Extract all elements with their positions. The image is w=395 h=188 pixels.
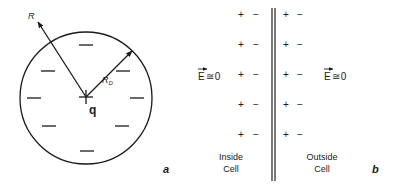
- minus-charge-right: −: [297, 9, 303, 20]
- minus-charge-right: −: [297, 39, 303, 50]
- field-value: 0: [215, 71, 221, 82]
- field-left: E≅0: [198, 69, 221, 82]
- plus-charge-right: +: [283, 39, 289, 50]
- inside-cell-label-line1: Inside: [219, 152, 243, 162]
- figure: q R RD a +−+−+−+−+−+−+−+−+−+− E≅0 E≅0: [0, 0, 395, 188]
- plus-charge-left: +: [238, 9, 244, 20]
- field-vector: E: [198, 71, 205, 82]
- inside-cell-label-line2: Cell: [223, 164, 239, 174]
- minus-charge-left: −: [253, 39, 259, 50]
- radius-arrow: [38, 22, 86, 97]
- panel-a-label: a: [163, 163, 169, 175]
- panel-b: +−+−+−+−+−+−+−+−+−+− E≅0 E≅0 Inside Cell…: [198, 8, 379, 181]
- minus-charge-left: −: [253, 99, 259, 110]
- field-left-text: E≅0: [198, 71, 221, 82]
- minus-charge-left: −: [253, 129, 259, 140]
- charge-label-q: q: [89, 103, 96, 117]
- panel-a: q R RD a: [20, 11, 169, 175]
- debye-radius-label: RD: [102, 75, 114, 86]
- debye-radius-arrow: [86, 51, 132, 97]
- field-relation: ≅: [332, 71, 340, 82]
- radius-label: R: [28, 11, 35, 21]
- field-right-text: E≅0: [324, 71, 347, 82]
- outside-cell-label-line1: Outside: [306, 152, 337, 162]
- diagram-canvas: q R RD a +−+−+−+−+−+−+−+−+−+− E≅0 E≅0: [0, 0, 395, 188]
- panel-b-label: b: [372, 163, 379, 175]
- field-vector: E: [324, 71, 331, 82]
- minus-charge-right: −: [297, 99, 303, 110]
- plus-charge-right: +: [283, 99, 289, 110]
- plus-charge-left: +: [238, 129, 244, 140]
- field-relation: ≅: [206, 71, 214, 82]
- plus-charge-right: +: [283, 69, 289, 80]
- outside-cell-label-line2: Cell: [314, 164, 330, 174]
- minus-charge-left: −: [253, 69, 259, 80]
- minus-charge-right: −: [297, 129, 303, 140]
- charge-rows: +−+−+−+−+−+−+−+−+−+−: [238, 9, 303, 140]
- minus-charge-right: −: [297, 69, 303, 80]
- plus-charge-right: +: [283, 129, 289, 140]
- field-value: 0: [341, 71, 347, 82]
- plus-charge-left: +: [238, 99, 244, 110]
- minus-charge-left: −: [253, 9, 259, 20]
- plus-charge-left: +: [238, 39, 244, 50]
- plus-charge-right: +: [283, 9, 289, 20]
- debye-radius-sub: D: [109, 80, 114, 86]
- plus-charge-left: +: [238, 69, 244, 80]
- field-right: E≅0: [324, 69, 347, 82]
